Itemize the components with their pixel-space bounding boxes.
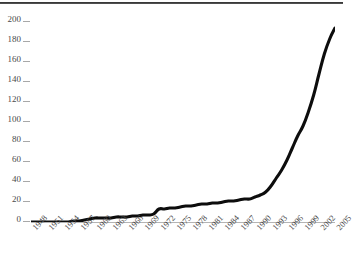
y-tick-mark bbox=[23, 121, 30, 122]
y-tick-mark bbox=[23, 101, 30, 102]
y-tick-label: 200 bbox=[8, 15, 22, 24]
line-chart-svg bbox=[31, 22, 335, 222]
plot-area bbox=[31, 22, 335, 222]
y-tick-mark bbox=[23, 21, 30, 22]
y-tick-label: 60 bbox=[12, 155, 21, 164]
y-tick-label: 140 bbox=[8, 75, 22, 84]
y-tick-label: 80 bbox=[12, 135, 21, 144]
y-tick-mark bbox=[23, 221, 30, 222]
y-tick-label: 0 bbox=[17, 215, 22, 224]
top-divider-rule bbox=[0, 2, 343, 4]
x-tick-label: 2005 bbox=[335, 214, 353, 233]
y-tick-mark bbox=[23, 201, 30, 202]
y-tick-mark bbox=[23, 161, 30, 162]
y-tick-mark bbox=[23, 61, 30, 62]
y-tick-mark bbox=[23, 41, 30, 42]
y-tick-mark bbox=[23, 181, 30, 182]
y-tick-label: 120 bbox=[8, 95, 22, 104]
y-tick-label: 40 bbox=[12, 175, 21, 184]
y-tick-mark bbox=[23, 81, 30, 82]
y-tick-label: 100 bbox=[8, 115, 22, 124]
series-line-cumulative-total bbox=[31, 28, 335, 222]
y-tick-label: 20 bbox=[12, 195, 21, 204]
y-tick-mark bbox=[23, 141, 30, 142]
y-tick-label: 160 bbox=[8, 55, 22, 64]
y-tick-label: 180 bbox=[8, 35, 22, 44]
